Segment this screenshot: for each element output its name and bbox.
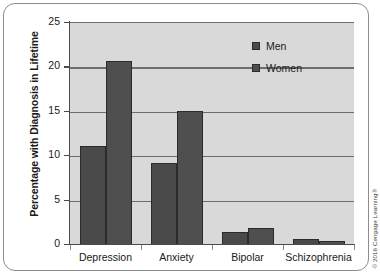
- bar-bipolar-women: [248, 228, 274, 245]
- x-axis-tick-mark: [283, 245, 284, 250]
- legend-item-men: Men: [252, 40, 302, 52]
- bar-bipolar-men: [222, 232, 248, 245]
- x-axis-tick-label-depression: Depression: [79, 251, 132, 263]
- legend-swatch-women-icon: [252, 64, 260, 72]
- x-axis-tick-label-anxiety: Anxiety: [159, 251, 193, 263]
- y-axis-tick-mark: [64, 66, 69, 67]
- legend-label-women: Women: [266, 62, 302, 74]
- legend-label-men: Men: [266, 40, 286, 52]
- x-axis-tick-mark: [141, 245, 142, 250]
- plot-area: [70, 22, 354, 245]
- copyright-credit: © 2016 Cengage Learning®: [371, 119, 378, 269]
- y-axis-tick-mark: [64, 200, 69, 201]
- x-axis-tick-mark: [212, 245, 213, 250]
- x-axis-tick-label-schizophrenia: Schizophrenia: [285, 251, 352, 263]
- legend-item-women: Women: [252, 62, 302, 74]
- x-axis-tick-label-bipolar: Bipolar: [231, 251, 264, 263]
- chart-figure: Percentage with Diagnosis in Lifetime 05…: [0, 0, 380, 278]
- y-axis-tick-label: 15: [34, 104, 60, 116]
- y-axis-tick-label: 25: [34, 15, 60, 27]
- y-axis-tick-label: 10: [34, 148, 60, 160]
- y-axis-line: [69, 21, 70, 245]
- chart-legend: Men Women: [252, 40, 302, 84]
- bar-anxiety-men: [151, 163, 177, 245]
- legend-swatch-men-icon: [252, 42, 260, 50]
- bar-depression-women: [106, 61, 132, 245]
- x-axis-tick-mark: [354, 245, 355, 250]
- bar-depression-men: [80, 146, 106, 245]
- y-axis-tick-label: 0: [34, 237, 60, 249]
- y-axis-tick-mark: [64, 111, 69, 112]
- y-axis-tick-label: 20: [34, 59, 60, 71]
- bar-anxiety-women: [177, 111, 203, 245]
- y-axis-tick-mark: [64, 22, 69, 23]
- y-axis-tick-mark: [64, 244, 69, 245]
- x-axis-tick-mark: [70, 245, 71, 250]
- y-axis-tick-mark: [64, 155, 69, 156]
- y-axis-tick-label: 5: [34, 193, 60, 205]
